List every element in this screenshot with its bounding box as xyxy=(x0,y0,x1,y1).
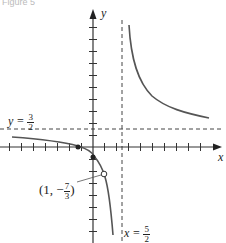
v-asym-den: 2 xyxy=(144,235,149,243)
hole-open: (1, − xyxy=(39,182,64,197)
hole-leader-line xyxy=(77,175,101,182)
y-axis-arrow xyxy=(90,9,97,19)
y-axis-label: y xyxy=(101,6,106,21)
hole-den: 3 xyxy=(65,192,70,201)
h-asym-den: 2 xyxy=(28,123,33,132)
h-asym-prefix: y = xyxy=(8,114,24,128)
y-intercept-point xyxy=(91,155,96,160)
curve-right-branch xyxy=(129,25,209,118)
x-intercept-point xyxy=(76,145,81,150)
hole-label: (1, −73) xyxy=(39,182,75,201)
vertical-asymptote-label: x = 52 xyxy=(124,225,150,243)
hole-close: ) xyxy=(70,182,74,197)
v-asym-prefix: x = xyxy=(124,226,140,240)
x-axis-label: x xyxy=(218,150,223,165)
horizontal-asymptote-label: y = 32 xyxy=(8,113,34,132)
hole-point xyxy=(101,171,107,177)
